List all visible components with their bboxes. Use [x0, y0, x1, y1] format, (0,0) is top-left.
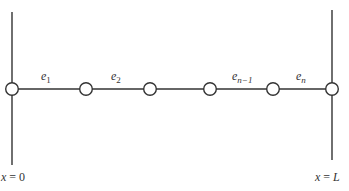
node-3: [144, 83, 157, 96]
node-6: [326, 83, 339, 96]
node-1: [6, 83, 19, 96]
node-2: [80, 83, 93, 96]
node-5: [267, 83, 280, 96]
right-boundary-label: x = L: [314, 170, 340, 184]
element-label-en: en: [296, 69, 306, 85]
element-label-e1: e1: [41, 69, 51, 85]
element-label-en-1: en−1: [232, 69, 252, 85]
fem-mesh-diagram: e1 e2 en−1 en x = 0 x = L: [0, 0, 349, 191]
node-4: [204, 83, 217, 96]
left-boundary-label: x = 0: [0, 170, 25, 184]
element-label-e2: e2: [111, 69, 121, 85]
